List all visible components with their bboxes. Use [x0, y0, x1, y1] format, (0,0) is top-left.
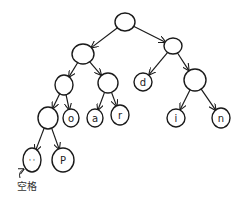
tree-node-n_lr [98, 73, 118, 93]
node-label: P [60, 155, 66, 166]
tree-edge [51, 127, 59, 149]
tree-node-n_d: d [134, 73, 152, 91]
tree-edge [91, 27, 117, 47]
tree-edge [180, 90, 190, 110]
tree-node-n_o: o [63, 109, 79, 127]
tree-edge [177, 53, 188, 71]
tree-node-n_i: i [167, 109, 185, 127]
tree-node-n_r2: r [111, 105, 129, 125]
tree-node-n_l [72, 44, 94, 64]
tree-edge [53, 93, 60, 108]
tree-node-n_ll [55, 75, 73, 95]
space-annotation-label: 空格 [17, 178, 37, 193]
tree-node-n_space: ' ' [23, 148, 41, 172]
annotation-arrow [20, 169, 25, 178]
tree-edge [98, 92, 105, 110]
tree-diagram: doarin' 'P 空格 [0, 0, 245, 200]
tree-edge [149, 52, 168, 75]
tree-node-n_lll [38, 107, 58, 129]
tree-edge [69, 63, 78, 77]
tree-node-n_rr [184, 69, 206, 91]
tree-edge [35, 127, 44, 151]
tree-node-n_a: a [87, 109, 103, 127]
tree-edge [90, 62, 102, 75]
tree-edge [112, 92, 117, 106]
node-label: a [92, 113, 98, 124]
node-label: o [68, 113, 74, 124]
tree-node-n_p: P [52, 148, 74, 172]
node-label: i [175, 113, 178, 124]
tree-edge [66, 94, 69, 110]
node-label: ' ' [29, 158, 35, 166]
node-label: n [218, 113, 224, 124]
tree-node-root [115, 13, 135, 31]
node-label: d [140, 77, 146, 88]
tree-node-n_n: n [212, 108, 230, 128]
tree-node-n_r [164, 38, 182, 54]
tree-edge [201, 89, 215, 110]
tree-svg: doarin' 'P [0, 0, 245, 200]
tree-edge [133, 26, 165, 42]
tree-nodes: doarin' 'P [23, 13, 230, 172]
